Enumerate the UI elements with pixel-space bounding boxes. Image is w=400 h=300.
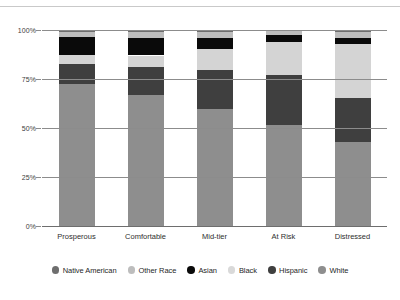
bar-segment-hispanic[interactable] xyxy=(335,98,371,142)
bar-segment-other-race[interactable] xyxy=(197,32,233,38)
bar-segment-black[interactable] xyxy=(266,42,302,75)
legend-item-black[interactable]: Black xyxy=(228,266,257,275)
legend-item-label: Other Race xyxy=(139,266,177,275)
chart-page: 0%25%50%75%100%ProsperousComfortableMid-… xyxy=(0,0,400,300)
gridline xyxy=(42,177,387,178)
legend-swatch-icon xyxy=(187,266,195,274)
legend-item-label: Black xyxy=(239,266,257,275)
y-axis-tick-label: 25% xyxy=(0,174,36,181)
gridline xyxy=(42,79,387,80)
bar-segment-asian[interactable] xyxy=(335,38,371,44)
y-tick-mark xyxy=(36,79,41,80)
bar-segment-asian[interactable] xyxy=(197,38,233,49)
bar-segment-black[interactable] xyxy=(128,56,164,68)
legend-item-white[interactable]: White xyxy=(318,266,348,275)
bar-segment-black[interactable] xyxy=(335,44,371,98)
y-axis-tick-label: 75% xyxy=(0,76,36,83)
legend-item-label: Hispanic xyxy=(279,266,307,275)
bar-segment-white[interactable] xyxy=(335,142,371,226)
x-axis-tick-label: Distressed xyxy=(310,232,396,241)
bar-segment-black[interactable] xyxy=(59,55,95,65)
bar-segment-white[interactable] xyxy=(266,125,302,226)
bar-segment-other-race[interactable] xyxy=(266,31,302,35)
bar-segment-asian[interactable] xyxy=(59,37,95,55)
legend-swatch-icon xyxy=(318,266,326,274)
legend-item-label: Native American xyxy=(63,266,117,275)
legend-item-hispanic[interactable]: Hispanic xyxy=(268,266,307,275)
legend-item-other-race[interactable]: Other Race xyxy=(128,266,177,275)
legend-swatch-icon xyxy=(228,266,236,274)
bar-segment-hispanic[interactable] xyxy=(266,75,302,125)
y-tick-mark xyxy=(36,30,41,31)
y-tick-mark xyxy=(36,226,41,227)
bar-segment-other-race[interactable] xyxy=(128,32,164,38)
bar-segment-other-race[interactable] xyxy=(59,32,95,37)
bar-segment-white[interactable] xyxy=(128,95,164,226)
bar-segment-white[interactable] xyxy=(197,109,233,226)
legend-item-label: Asian xyxy=(198,266,217,275)
y-tick-mark xyxy=(36,128,41,129)
bar-segment-asian[interactable] xyxy=(266,35,302,42)
gridline xyxy=(42,30,387,31)
legend-swatch-icon xyxy=(52,266,60,274)
stacked-bar-chart: 0%25%50%75%100%ProsperousComfortableMid-… xyxy=(0,10,400,260)
bar-segment-white[interactable] xyxy=(59,84,95,226)
chart-legend: Native AmericanOther RaceAsianBlackHispa… xyxy=(0,258,400,282)
bar-segment-hispanic[interactable] xyxy=(128,67,164,94)
axis-baseline xyxy=(42,226,387,227)
legend-item-native-american[interactable]: Native American xyxy=(52,266,117,275)
legend-item-asian[interactable]: Asian xyxy=(187,266,217,275)
bar-segment-hispanic[interactable] xyxy=(197,70,233,109)
bar-segment-black[interactable] xyxy=(197,49,233,71)
legend-swatch-icon xyxy=(268,266,276,274)
y-tick-mark xyxy=(36,177,41,178)
y-axis-tick-label: 50% xyxy=(0,125,36,132)
y-axis-tick-label: 0% xyxy=(0,223,36,230)
legend-item-label: White xyxy=(329,266,348,275)
bar-segment-other-race[interactable] xyxy=(335,32,371,38)
legend-swatch-icon xyxy=(128,266,136,274)
page-top-divider xyxy=(0,6,400,7)
gridline xyxy=(42,128,387,129)
y-axis-tick-label: 100% xyxy=(0,27,36,34)
bar-segment-asian[interactable] xyxy=(128,38,164,56)
bar-segment-hispanic[interactable] xyxy=(59,64,95,84)
